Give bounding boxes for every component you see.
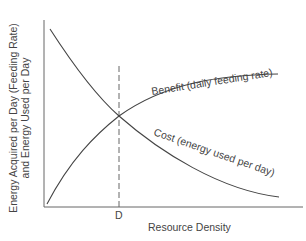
y-axis-label-line1: Energy Acquired per Day (Feeding Rate)	[7, 23, 19, 213]
y-axis-label-line2: and Energy Used per Day	[19, 23, 31, 213]
cost-label: Cost (energy used per day)	[152, 126, 276, 179]
benefit-label: Benefit (daily feeding rate)	[150, 66, 273, 97]
cost-curve	[50, 29, 279, 197]
x-tick-d: D	[115, 209, 123, 221]
chart-canvas: Benefit (daily feeding rate) Cost (energ…	[0, 0, 306, 241]
x-axis-label: Resource Density	[148, 221, 231, 233]
